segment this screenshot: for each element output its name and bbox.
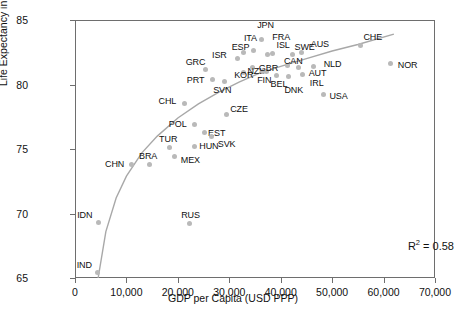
point-label-grc: GRC bbox=[186, 58, 206, 67]
point-label-jpn: JPN bbox=[257, 21, 274, 30]
point-label-prt: PRT bbox=[187, 76, 205, 85]
point-label-che: CHE bbox=[363, 33, 382, 42]
data-point-tur[interactable] bbox=[167, 145, 172, 150]
point-label-aut: AUT bbox=[309, 69, 327, 78]
point-label-rus: RUS bbox=[181, 211, 200, 220]
data-point-grc[interactable] bbox=[203, 67, 208, 72]
point-label-esp: ESP bbox=[232, 43, 250, 52]
point-label-mex: MEX bbox=[181, 156, 200, 165]
point-label-idn: IDN bbox=[77, 211, 92, 220]
point-label-chn: CHN bbox=[105, 160, 124, 169]
r-squared-value: 0.58 bbox=[433, 240, 454, 252]
r-squared-annotation: R2 = 0.58 bbox=[408, 238, 454, 252]
data-point-bra[interactable] bbox=[147, 162, 152, 167]
point-label-pol: POL bbox=[169, 120, 187, 129]
data-point-jpn[interactable] bbox=[259, 37, 264, 42]
point-label-hun: HUN bbox=[199, 142, 218, 151]
point-label-aus: AUS bbox=[311, 40, 329, 49]
point-label-bra: BRA bbox=[139, 152, 157, 161]
point-label-fin: FIN bbox=[257, 76, 271, 85]
point-label-isr: ISR bbox=[212, 51, 227, 60]
point-label-gbr: GBR bbox=[259, 64, 278, 73]
data-point-hun[interactable] bbox=[192, 144, 197, 149]
point-label-irl: IRL bbox=[310, 79, 324, 88]
point-label-usa: USA bbox=[329, 92, 347, 101]
point-label-svk: SVK bbox=[218, 140, 236, 149]
point-label-dnk: DNK bbox=[284, 86, 303, 95]
point-label-nor: NOR bbox=[398, 61, 418, 70]
data-point-idn[interactable] bbox=[96, 220, 101, 225]
point-label-isl: ISL bbox=[276, 41, 289, 50]
chart-root: Life Expectancy in Years GDP per Capita … bbox=[0, 0, 466, 318]
point-label-cze: CZE bbox=[230, 105, 248, 114]
point-label-ita: ITA bbox=[244, 34, 257, 43]
point-label-chl: CHL bbox=[159, 97, 177, 106]
point-label-nld: NLD bbox=[324, 60, 342, 69]
data-point-isl[interactable] bbox=[270, 51, 275, 56]
point-label-tur: TUR bbox=[159, 135, 177, 144]
data-point-est[interactable] bbox=[202, 130, 207, 135]
data-point-rus[interactable] bbox=[187, 221, 192, 226]
data-point-svk[interactable] bbox=[209, 134, 214, 139]
data-point-chn[interactable] bbox=[129, 162, 134, 167]
data-point-isr[interactable] bbox=[235, 56, 240, 61]
point-label-svn: SVN bbox=[213, 86, 231, 95]
point-label-ind: IND bbox=[77, 261, 92, 270]
data-point-cze[interactable] bbox=[224, 112, 229, 117]
